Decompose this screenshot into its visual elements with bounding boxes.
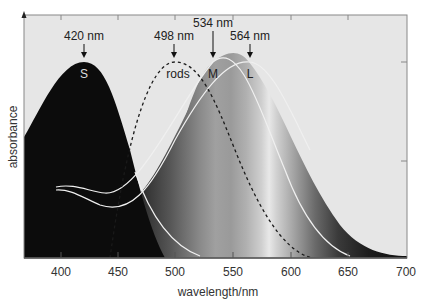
x-tick-400: 400: [51, 265, 71, 279]
x-axis-title: wavelength/nm: [177, 285, 259, 299]
absorbance-chart: 400 450 500 550 600 650 700 wavelength/n…: [0, 0, 428, 308]
y-axis-title: absorbance: [6, 105, 20, 168]
peak-label-534: 534 nm: [193, 16, 233, 30]
x-tick-500: 500: [165, 265, 185, 279]
x-tick-650: 650: [338, 265, 358, 279]
peak-label-498: 498 nm: [154, 29, 194, 43]
x-tick-550: 550: [223, 265, 243, 279]
curve-label-s: S: [80, 67, 88, 81]
peak-label-564: 564 nm: [230, 29, 270, 43]
x-tick-700: 700: [396, 265, 416, 279]
curve-label-rods: rods: [166, 67, 189, 81]
curve-label-l: L: [247, 67, 254, 81]
x-tick-450: 450: [108, 265, 128, 279]
x-tick-600: 600: [281, 265, 301, 279]
peak-label-420: 420 nm: [64, 29, 104, 43]
curve-label-m: M: [208, 67, 218, 81]
